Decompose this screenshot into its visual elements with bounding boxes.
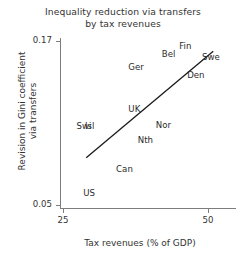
data-point-label: Can	[116, 164, 133, 174]
chart-title-line-2: by tax revenues	[0, 18, 246, 30]
chart-title: Inequality reduction via transfers by ta…	[0, 6, 246, 30]
data-point-label: UK	[128, 104, 140, 114]
data-point-label: Den	[187, 70, 204, 80]
x-axis-tick-label-25: 25	[52, 215, 74, 225]
chart-title-line-1: Inequality reduction via transfers	[0, 6, 246, 18]
data-point-label: Isl	[85, 121, 94, 131]
y-axis-tick-label-bottom: 0.05	[24, 199, 52, 209]
data-point-label: Bel	[162, 49, 176, 59]
y-axis-title-line-2: via transfers	[28, 31, 39, 191]
x-axis-line	[60, 208, 236, 209]
x-axis-title: Tax revenues (% of GDP)	[40, 238, 240, 248]
data-point-label: Nth	[138, 135, 153, 145]
data-point-label: Ger	[128, 62, 143, 72]
x-axis-tick-25	[63, 208, 64, 213]
data-point-label: Fin	[179, 41, 191, 51]
y-axis-line	[60, 38, 61, 208]
data-point-label: Swe	[202, 52, 220, 62]
y-axis-title: Revision in Gini coefficient via transfe…	[17, 31, 39, 191]
y-axis-tick-bottom	[56, 205, 60, 206]
x-axis-tick-label-50: 50	[197, 215, 219, 225]
x-axis-tick-50	[208, 208, 209, 213]
data-point-label: US	[83, 188, 95, 198]
y-axis-tick-top	[56, 41, 60, 42]
y-axis-title-line-1: Revision in Gini coefficient	[17, 31, 28, 191]
scatter-chart-figure: Inequality reduction via transfers by ta…	[0, 0, 246, 262]
data-point-label: Nor	[156, 120, 171, 130]
